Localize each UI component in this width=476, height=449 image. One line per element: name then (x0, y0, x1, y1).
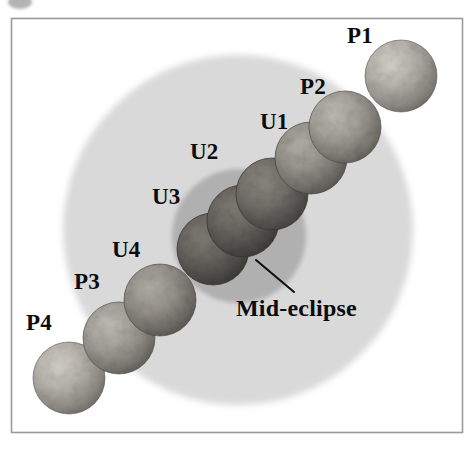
moon-P2 (309, 91, 381, 163)
label-u2: U2 (190, 140, 219, 163)
label-u4: U4 (112, 238, 141, 261)
label-u3: U3 (152, 185, 181, 208)
label-p1: P1 (347, 24, 373, 47)
moon-P1 (365, 40, 437, 112)
label-mid-eclipse: Mid-eclipse (236, 296, 357, 320)
label-u1: U1 (260, 110, 289, 133)
label-p3: P3 (74, 270, 100, 293)
label-p2: P2 (300, 75, 326, 98)
moon-P3 (124, 264, 196, 336)
eclipse-figure: P1 P2 U1 U2 U3 U4 P3 P4 Mid-eclipse (0, 0, 476, 449)
label-p4: P4 (26, 311, 52, 334)
eclipse-diagram-canvas (0, 0, 476, 449)
